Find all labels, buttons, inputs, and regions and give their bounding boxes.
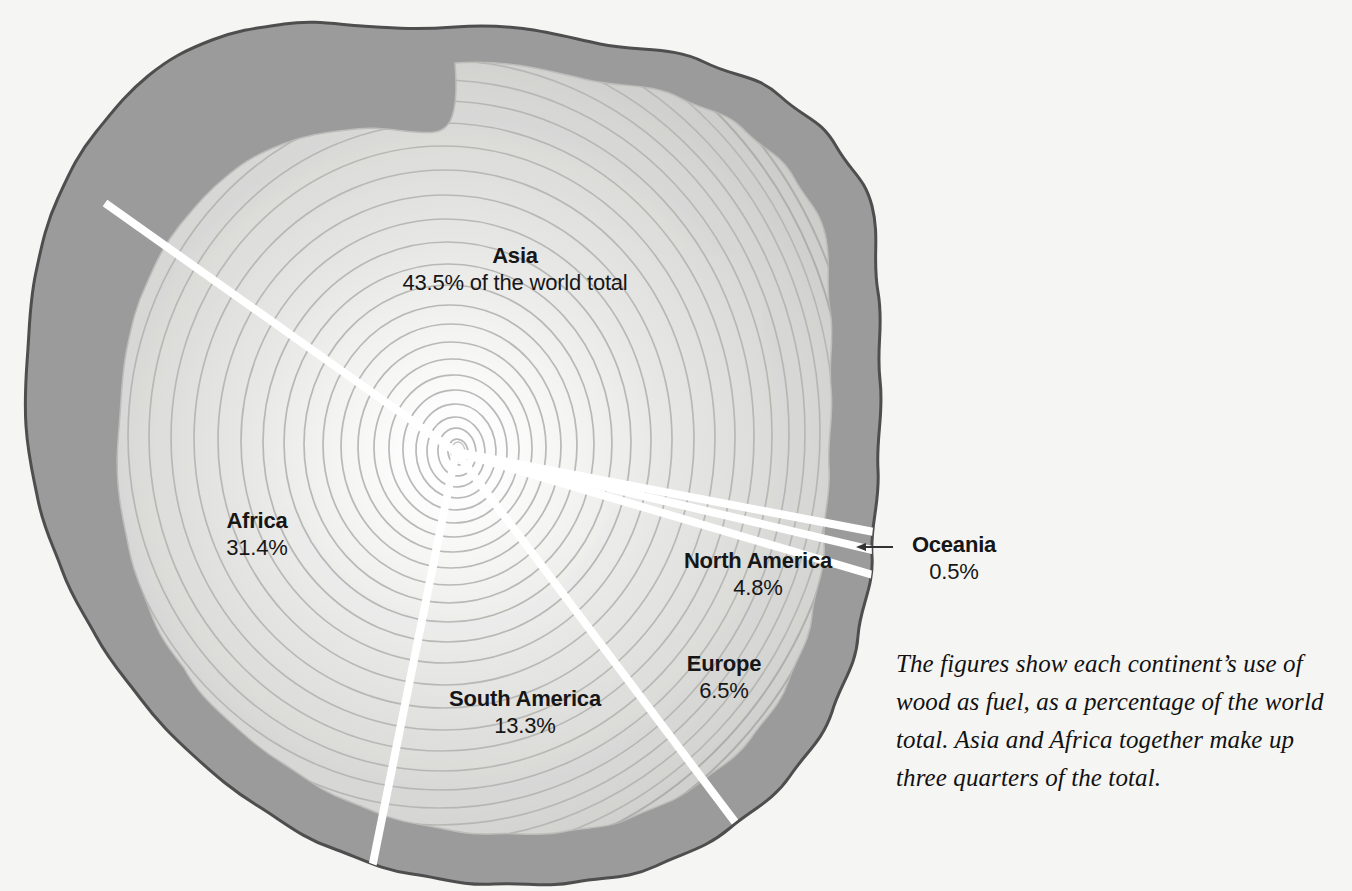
figure-caption: The figures show each continent’s use of… — [896, 645, 1348, 797]
figure-stage: Asia 43.5% of the world total Africa 31.… — [0, 0, 1352, 891]
